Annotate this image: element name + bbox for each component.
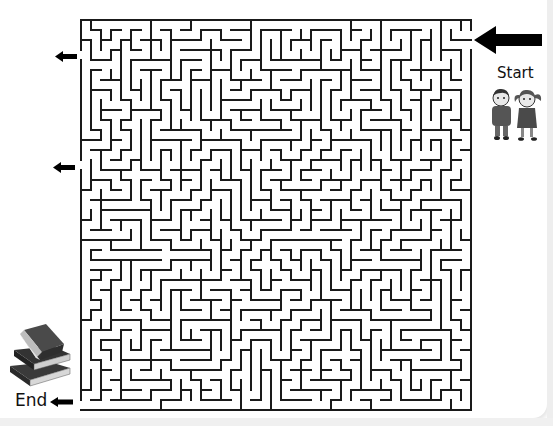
start-arrow-icon [474,26,542,54]
start-label: Start [497,64,534,82]
card-edge-bottom [0,418,553,426]
card-edge-right [547,0,553,426]
decoy-arrow-1-icon [55,51,77,62]
maze-grid[interactable] [79,18,473,412]
two-children-icon [487,86,543,144]
end-arrow-icon [50,397,73,407]
decoy-arrow-2-icon [53,162,75,173]
stack-of-books-icon [6,322,74,388]
maze-walls [81,20,471,410]
end-label: End [15,390,47,410]
